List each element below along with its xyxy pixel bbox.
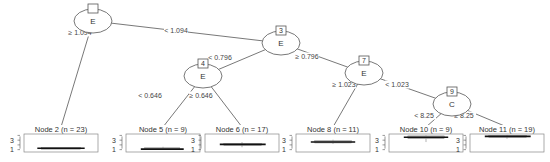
split-label: ≥ 0.646: [189, 92, 212, 99]
node-id-box: [88, 4, 98, 13]
inner-node-9: C9: [433, 87, 471, 116]
y-tick-label: 1: [456, 146, 460, 153]
y-tick-label: 1: [112, 146, 116, 153]
y-tick-label: 3: [112, 137, 116, 144]
inner-node-1: E: [74, 4, 112, 33]
terminal-title: Node 6 (n = 17): [216, 125, 269, 134]
terminal-title: Node 2 (n = 23): [35, 125, 88, 134]
terminal-title: Node 8 (n = 11): [307, 125, 359, 134]
split-variable: E: [278, 39, 283, 48]
node-id: 9: [450, 88, 454, 95]
split-label: ≥ 0.796: [295, 53, 318, 60]
y-tick-label: 1: [10, 146, 14, 153]
split-label: < 0.796: [208, 54, 232, 61]
y-tick-label: 1: [282, 146, 286, 153]
split-label: < 8.25: [414, 112, 434, 119]
inner-nodes: EE3E4E7C9: [74, 4, 471, 116]
y-tick-label: 1: [191, 146, 195, 153]
terminal-node-11: Node 11 (n = 19)31: [456, 125, 548, 155]
split-label: < 0.646: [138, 92, 162, 99]
terminal-title: Node 10 (n = 9): [400, 125, 453, 134]
terminal-node-2: Node 2 (n = 23)31: [10, 125, 102, 155]
node-id: 3: [279, 27, 283, 34]
split-variable: E: [361, 69, 366, 78]
terminal-node-6: Node 6 (n = 17)31: [191, 125, 283, 155]
inner-node-4: E4: [184, 59, 222, 88]
y-tick-label: 3: [10, 137, 14, 144]
terminal-title: Node 5 (n = 9): [139, 125, 188, 134]
y-tick-label: 1: [375, 146, 379, 153]
y-tick-label: 3: [282, 137, 286, 144]
terminal-nodes: Node 2 (n = 23)31Node 5 (n = 9)31Node 6 …: [10, 125, 548, 155]
y-tick-label: 3: [456, 137, 460, 144]
y-tick-label: 3: [191, 137, 195, 144]
edge-1-2: [61, 21, 93, 127]
split-variable: E: [200, 72, 205, 81]
split-label: < 1.094: [164, 27, 188, 34]
split-variable: E: [90, 17, 95, 26]
decision-tree-diagram: ≥ 1.094< 1.094< 0.796≥ 0.796< 0.646≥ 0.6…: [0, 0, 550, 162]
terminal-title: Node 11 (n = 19): [479, 125, 535, 134]
terminal-node-8: Node 8 (n = 11)31: [282, 125, 374, 155]
y-tick-label: 3: [375, 137, 379, 144]
inner-node-7: E7: [345, 56, 383, 85]
split-label: < 1.023: [385, 81, 409, 88]
terminal-node-10: Node 10 (n = 9)31: [375, 125, 467, 155]
split-variable: C: [449, 100, 455, 109]
node-id: 4: [201, 60, 205, 67]
inner-node-3: E3: [262, 26, 300, 55]
node-id: 7: [362, 57, 366, 64]
